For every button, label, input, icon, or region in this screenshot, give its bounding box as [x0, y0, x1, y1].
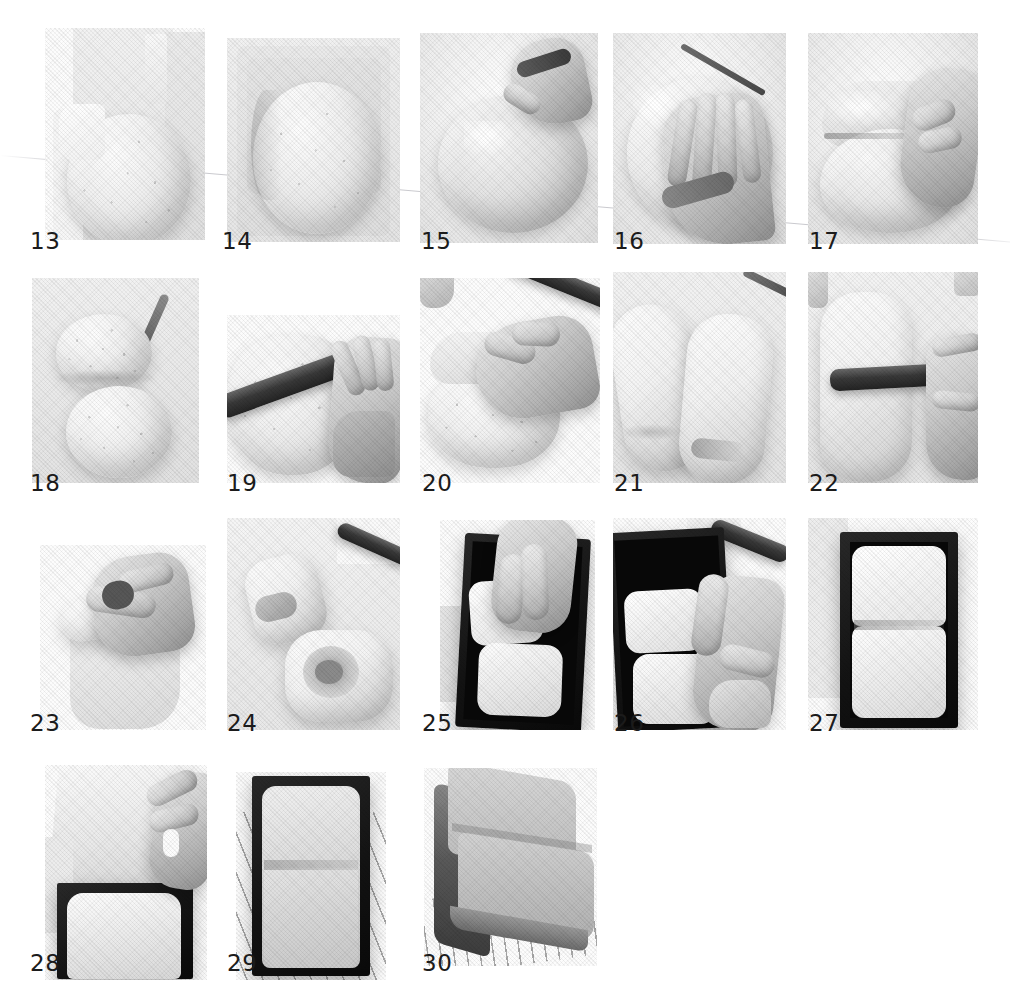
step-number-19: 19 — [227, 472, 257, 495]
step-photo-13 — [45, 28, 205, 240]
step-photo-21 — [613, 272, 786, 483]
step-number-26: 26 — [614, 712, 644, 735]
step-number-18: 18 — [30, 472, 60, 495]
step-photo-14 — [227, 38, 400, 242]
step-number-14: 14 — [222, 230, 252, 253]
step-photo-20 — [420, 278, 600, 483]
step-photo-18 — [32, 278, 199, 483]
step-number-23: 23 — [30, 712, 60, 735]
step-number-28: 28 — [30, 952, 60, 975]
step-number-27: 27 — [809, 712, 839, 735]
step-photo-22 — [808, 272, 978, 483]
step-photo-30 — [424, 768, 597, 966]
step-number-30: 30 — [422, 952, 452, 975]
step-number-13: 13 — [30, 230, 60, 253]
step-photo-27 — [808, 518, 978, 730]
step-number-16: 16 — [614, 230, 644, 253]
step-number-17: 17 — [809, 230, 839, 253]
step-photo-28 — [45, 765, 207, 980]
step-number-20: 20 — [422, 472, 452, 495]
step-photo-24 — [227, 518, 400, 730]
step-photo-16 — [613, 33, 786, 244]
photo-sequence-sheet: 13 14 15 — [0, 0, 1010, 999]
step-photo-19 — [227, 315, 400, 483]
step-photo-17 — [808, 33, 978, 244]
step-number-21: 21 — [614, 472, 644, 495]
step-number-15: 15 — [421, 230, 451, 253]
step-number-24: 24 — [227, 712, 257, 735]
step-photo-25 — [440, 520, 595, 730]
step-photo-26 — [613, 518, 786, 730]
step-number-25: 25 — [422, 712, 452, 735]
step-photo-29 — [236, 772, 386, 980]
step-number-29: 29 — [227, 952, 257, 975]
step-photo-15 — [420, 33, 598, 243]
step-photo-23 — [40, 545, 206, 730]
step-number-22: 22 — [809, 472, 839, 495]
